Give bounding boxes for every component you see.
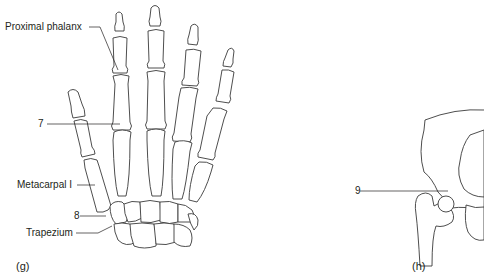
label-metacarpal-i: Metacarpal I bbox=[17, 179, 72, 191]
leader-trapezium bbox=[76, 226, 112, 233]
label-proximal-phalanx: Proximal phalanx bbox=[5, 21, 82, 33]
label-7: 7 bbox=[38, 118, 44, 130]
index-finger bbox=[112, 12, 132, 196]
middle-finger bbox=[146, 6, 167, 197]
label-8: 8 bbox=[74, 210, 80, 222]
hip-joint-illustration bbox=[415, 110, 484, 266]
panel-caption-h: (h) bbox=[412, 260, 425, 272]
label-9: 9 bbox=[355, 185, 361, 197]
carpal-bones bbox=[110, 201, 198, 249]
panel-caption-g: (g) bbox=[16, 260, 29, 272]
label-trapezium: Trapezium bbox=[26, 227, 73, 239]
thumb bbox=[68, 90, 111, 213]
